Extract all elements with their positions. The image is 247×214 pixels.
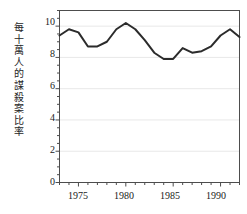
plot-frame: [60, 11, 240, 183]
x-axis-tick-marks: [60, 183, 240, 187]
plot-area: [0, 0, 247, 214]
data-line-series: [60, 23, 240, 59]
chart-figure: 每十萬人的謀殺案比率 10 8 6 4 2 0 1975 1980 1985 1…: [0, 0, 247, 214]
gridlines: [60, 26, 240, 182]
